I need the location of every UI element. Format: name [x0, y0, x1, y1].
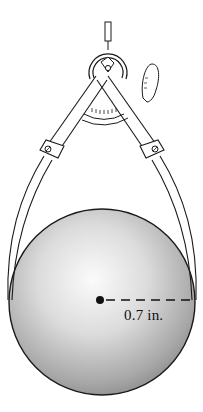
pivot-screw-icon	[105, 65, 110, 70]
caliper-sphere-diagram	[0, 0, 203, 412]
handle-knob	[105, 22, 111, 50]
center-dot	[96, 296, 104, 304]
thumb-tab	[142, 64, 158, 102]
protractor-scale	[82, 108, 128, 125]
radius-label: 0.7 in.	[124, 307, 163, 324]
hinge-pivot	[101, 57, 114, 72]
